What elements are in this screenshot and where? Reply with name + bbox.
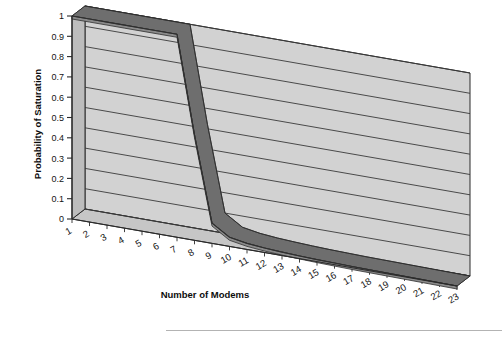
y-tick-label-0.3: 0.3 — [51, 154, 64, 164]
y-tick-label-0.7: 0.7 — [51, 72, 64, 82]
y-tick-label-0.1: 0.1 — [51, 194, 64, 204]
x-axis-title: Number of Modems — [161, 289, 250, 300]
y-tick-label-0.5: 0.5 — [51, 113, 64, 123]
chart-container: 10.90.80.70.60.50.40.30.20.10 1234567891… — [0, 0, 502, 337]
y-tick-label-1: 1 — [59, 11, 64, 21]
y-tick-label-0: 0 — [59, 214, 64, 224]
y-tick-label-0.2: 0.2 — [51, 174, 64, 184]
probability-of-saturation-3d-line-chart: 10.90.80.70.60.50.40.30.20.10 1234567891… — [0, 0, 502, 337]
y-axis-title: Probability of Saturation — [32, 69, 43, 180]
left-side-wall — [72, 6, 85, 219]
y-tick-label-0.9: 0.9 — [51, 32, 64, 42]
y-tick-label-0.4: 0.4 — [51, 133, 64, 143]
y-tick-label-0.6: 0.6 — [51, 93, 64, 103]
y-tick-label-0.8: 0.8 — [51, 52, 64, 62]
